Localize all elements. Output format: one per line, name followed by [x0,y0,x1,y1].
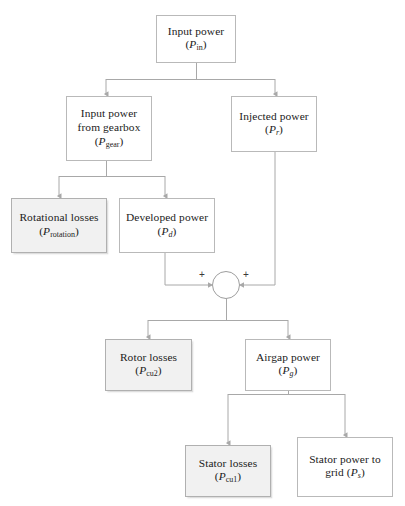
node-injected-power-label: Injected power [239,110,308,124]
connector-layer [0,0,405,506]
summation-plus-right: + [243,270,249,280]
node-injected-power[interactable]: Injected power (Pr) [231,96,317,152]
edge-injected-to-sum [240,152,275,285]
node-stator-losses-label: Stator losses [199,457,258,471]
node-gearbox-label-line1: Input power [81,107,137,121]
node-stator-power-to-grid[interactable]: Stator power to grid (Ps) [297,437,393,497]
node-input-power-from-gearbox[interactable]: Input power from gearbox (Pgear) [66,96,152,161]
node-developed-power[interactable]: Developed power (Pd) [119,198,215,253]
node-airgap-power-symbol: (Pg) [279,364,298,379]
node-gearbox-label-line2: from gearbox [78,121,141,135]
node-airgap-power-label: Airgap power [256,351,320,365]
node-developed-power-symbol: (Pd) [158,225,177,240]
node-input-power-symbol: (Pin) [185,38,206,53]
node-injected-power-symbol: (Pr) [265,123,283,138]
node-rotor-losses-label: Rotor losses [120,351,177,365]
node-stator-losses[interactable]: Stator losses (Pcu1) [185,445,271,497]
node-gearbox-symbol: (Pgear) [95,135,124,150]
summation-junction[interactable] [212,271,240,299]
node-rotor-losses[interactable]: Rotor losses (Pcu2) [105,339,192,391]
node-stator-grid-label-line1: Stator power to [309,453,381,467]
node-rotor-losses-symbol: (Pcu2) [135,364,161,379]
node-input-power-label: Input power [168,25,224,39]
node-developed-power-label: Developed power [126,211,208,225]
node-rotational-losses-label: Rotational losses [19,211,98,225]
power-flow-diagram: Input power (Pin) Input power from gearb… [0,0,405,506]
node-stator-losses-symbol: (Pcu1) [215,470,241,485]
node-input-power[interactable]: Input power (Pin) [156,15,236,63]
node-rotational-losses-symbol: (Protation) [39,225,79,240]
summation-plus-left: + [199,270,205,280]
node-rotational-losses[interactable]: Rotational losses (Protation) [11,198,107,253]
node-airgap-power[interactable]: Airgap power (Pg) [245,339,331,391]
node-stator-grid-symbol: grid (Ps) [325,466,365,481]
